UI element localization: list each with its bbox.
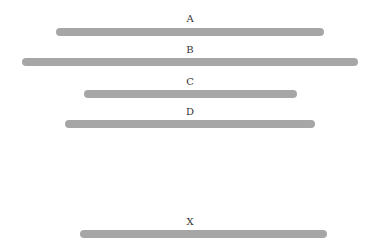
- line-label-c: C: [186, 77, 194, 87]
- line-label-b: B: [186, 45, 193, 55]
- line-bar-a: [56, 28, 324, 36]
- line-bar-d: [65, 120, 315, 128]
- line-bar-c: [84, 90, 297, 98]
- line-bar-x: [80, 230, 327, 238]
- line-label-x: X: [186, 217, 193, 227]
- line-bar-b: [22, 58, 358, 66]
- line-label-d: D: [186, 107, 194, 117]
- line-label-a: A: [186, 14, 193, 24]
